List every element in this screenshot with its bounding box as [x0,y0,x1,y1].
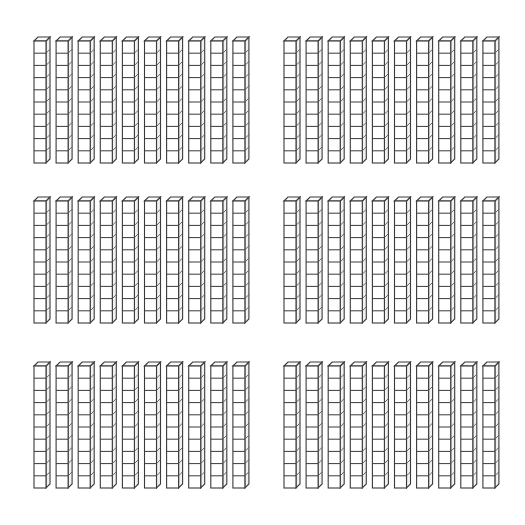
ten-rod [417,197,433,323]
ten-rod [372,37,388,163]
ten-rod [350,197,366,323]
ten-rod [145,197,161,323]
ten-rod [483,362,499,488]
ten-rod [284,197,300,323]
ten-rod [167,362,183,488]
ten-rod [78,197,94,323]
ten-rod [417,362,433,488]
ten-rod [395,362,411,488]
ten-rod [78,37,94,163]
ten-rod [461,37,477,163]
ten-rod [461,197,477,323]
ten-rod [189,362,205,488]
ten-rod [122,37,138,163]
ten-rod [439,197,455,323]
ten-rod [284,37,300,163]
ten-rod [100,37,116,163]
ten-rod [306,362,322,488]
ten-rod [284,362,300,488]
ten-rod [328,197,344,323]
ten-rod [395,37,411,163]
ten-rod [233,197,249,323]
ten-rod [483,37,499,163]
ten-rod [439,362,455,488]
ten-rod [461,362,477,488]
ten-rod [78,362,94,488]
ten-rod [145,362,161,488]
ten-rod [34,197,50,323]
ten-rod [483,197,499,323]
ten-rod [350,37,366,163]
ten-rod [56,362,72,488]
ten-rod [211,362,227,488]
ten-rod [350,362,366,488]
ten-rod [100,197,116,323]
ten-rod [122,362,138,488]
ten-rod [372,197,388,323]
ten-rod [189,197,205,323]
ten-rod [100,362,116,488]
ten-rod [34,362,50,488]
ten-rod [211,197,227,323]
ten-rod [56,37,72,163]
ten-rod [372,362,388,488]
ten-rod [34,37,50,163]
ten-rod [211,37,227,163]
ten-rod [395,197,411,323]
ten-rod [189,37,205,163]
ten-rod [328,37,344,163]
ten-rod [122,197,138,323]
ten-rod [233,37,249,163]
ten-rod [306,197,322,323]
ten-rod [439,37,455,163]
ten-rod [306,37,322,163]
ten-rod [167,197,183,323]
ten-rod [328,362,344,488]
ten-rod [56,197,72,323]
ten-rod [233,362,249,488]
ten-rod [167,37,183,163]
ten-rod [417,37,433,163]
ten-rod [145,37,161,163]
base-ten-blocks-diagram [0,0,525,525]
